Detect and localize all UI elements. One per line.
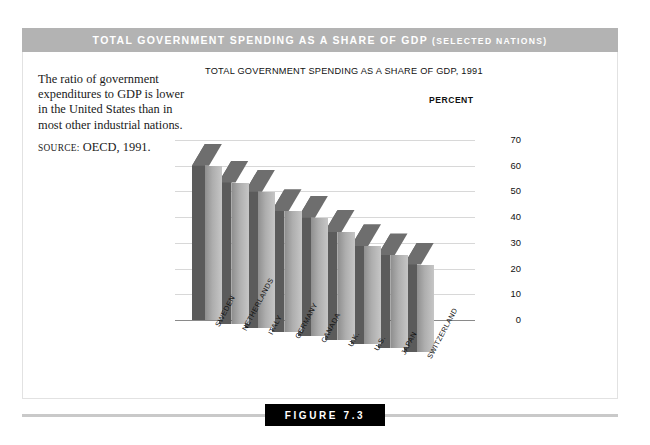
bar-top-face (298, 196, 328, 218)
bar-front-face (364, 246, 381, 344)
figure-page: Total Government Spending as a Share of … (0, 0, 650, 445)
bar-front-face (205, 166, 222, 320)
bar (285, 189, 302, 332)
header-title-paren: (selected nations) (432, 36, 547, 46)
bar-top-face (245, 170, 275, 192)
y-tick-label: 10 (485, 288, 521, 299)
y-tick-label: 40 (485, 211, 521, 222)
bar-top-face (351, 224, 381, 246)
header-banner: Total Government Spending as a Share of … (22, 28, 618, 52)
bar-series (175, 118, 475, 320)
bar-top-face (404, 243, 434, 265)
caption-text: The ratio of government expenditures to … (38, 72, 190, 133)
bar-top-face (272, 189, 302, 211)
chart-title: TOTAL GOVERNMENT SPENDING AS A SHARE OF … (205, 66, 483, 76)
bar (205, 144, 222, 320)
y-tick-label: 70 (485, 134, 521, 145)
bar (364, 224, 381, 344)
bar-front-face (311, 218, 328, 336)
bar (391, 233, 408, 348)
header-title-main: Total Government Spending as a Share of … (93, 34, 428, 46)
bar (338, 210, 355, 340)
source-value: OECD, 1991. (83, 140, 151, 154)
figure-badge-label: FIGURE 7.3 (285, 410, 365, 421)
y-tick-label: 20 (485, 263, 521, 274)
header-banner-title: Total Government Spending as a Share of … (93, 34, 548, 46)
y-tick-label: 30 (485, 237, 521, 248)
bar-front-face (338, 232, 355, 340)
bar-front-face (417, 265, 434, 352)
bar-front-face (285, 211, 302, 332)
source-label: SOURCE: (38, 143, 80, 153)
bar (417, 243, 434, 352)
bar-top-face (219, 161, 249, 183)
y-tick-label: 60 (485, 160, 521, 171)
y-tick-label: 50 (485, 185, 521, 196)
bar-front-face (391, 255, 408, 348)
figure-badge: FIGURE 7.3 (265, 404, 385, 426)
bar-top-face (325, 210, 355, 232)
plot-area (175, 118, 475, 320)
y-axis-label: PERCENT (429, 95, 474, 105)
bar-top-face (378, 233, 408, 255)
y-tick-label: 0 (485, 314, 521, 325)
bar-top-face (192, 144, 222, 166)
bar-side-face (192, 144, 205, 320)
